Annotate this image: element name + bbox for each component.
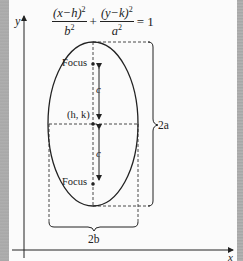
term1-numerator: (x−h) xyxy=(53,6,82,20)
x-axis-label: x xyxy=(228,252,233,261)
major-axis-label: 2a xyxy=(158,120,169,132)
focus-point-bottom xyxy=(91,182,95,186)
equation-term-x: (x−h)2 b2 xyxy=(52,6,87,37)
equation-term-y: (y−k)2 a2 xyxy=(100,6,134,37)
term2-denominator-exponent: 2 xyxy=(118,23,122,32)
center-label: (h, k) xyxy=(67,110,90,121)
focus-label-bottom: Focus xyxy=(62,177,87,188)
term2-numerator: (y−k) xyxy=(101,6,129,20)
ellipse-equation: (x−h)2 b2 + (y−k)2 a2 = 1 xyxy=(52,6,154,37)
term1-numerator-exponent: 2 xyxy=(82,5,86,14)
term2-numerator-exponent: 2 xyxy=(129,5,133,14)
equals-one: = 1 xyxy=(137,14,154,30)
ellipse-diagram xyxy=(0,0,243,261)
focus-point-top xyxy=(91,62,95,66)
y-axis-label: y xyxy=(15,15,20,27)
minor-axis-brace xyxy=(49,222,138,231)
center-point xyxy=(91,122,95,126)
major-axis-brace xyxy=(148,42,158,206)
c-label-bottom: c xyxy=(96,148,101,159)
major-axis-label-text: 2a xyxy=(158,119,169,131)
center-label-text: (h, k) xyxy=(67,109,90,120)
plus-sign: + xyxy=(90,14,97,30)
focus-label-top: Focus xyxy=(62,58,87,69)
c-label-top: c xyxy=(96,84,101,95)
minor-axis-label: 2b xyxy=(88,234,100,246)
term1-denominator-exponent: 2 xyxy=(70,23,74,32)
